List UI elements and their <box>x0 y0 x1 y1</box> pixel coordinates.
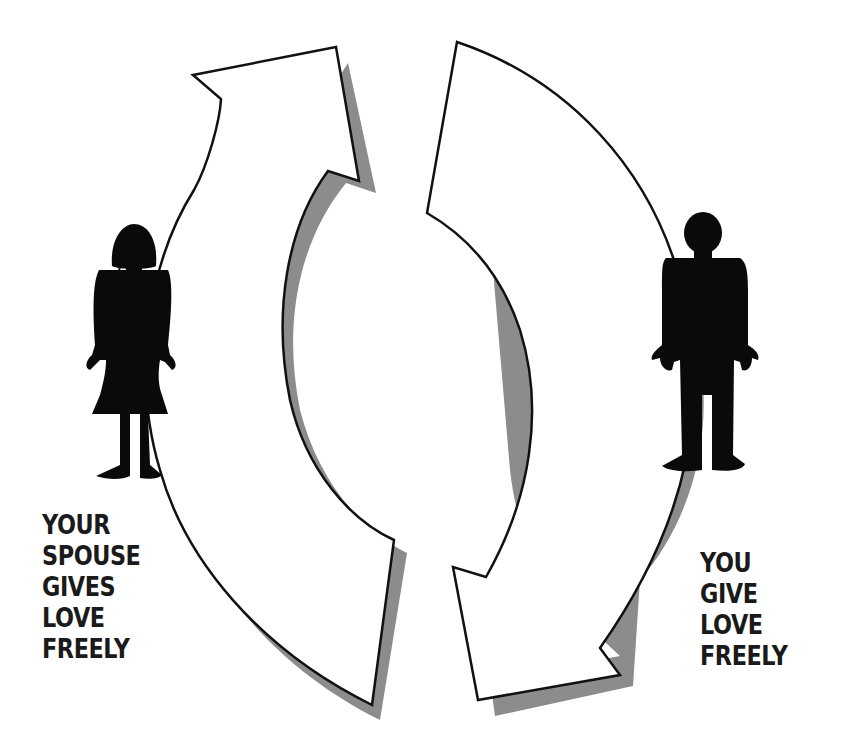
label-line: LOVE <box>42 603 140 634</box>
left-cycle-arrow <box>146 47 407 720</box>
label-line: YOU <box>700 548 787 579</box>
right-arrow-body <box>427 42 694 700</box>
label-line: FREELY <box>700 641 787 672</box>
label-line: GIVES <box>42 572 140 603</box>
label-line: YOUR <box>42 510 140 541</box>
label-line: FREELY <box>42 634 140 665</box>
label-line: LOVE <box>700 610 787 641</box>
label-line: GIVE <box>700 579 787 610</box>
right-cycle-arrow <box>427 42 704 716</box>
you-give-love-label: YOU GIVE LOVE FREELY <box>700 548 787 672</box>
label-line: SPOUSE <box>42 541 140 572</box>
man-head <box>684 212 722 254</box>
spouse-gives-love-label: YOUR SPOUSE GIVES LOVE FREELY <box>42 510 140 665</box>
